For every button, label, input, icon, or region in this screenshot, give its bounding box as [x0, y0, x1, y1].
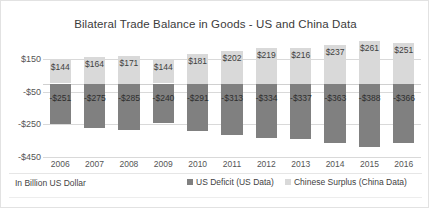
- bar-value-label: -$334: [256, 93, 277, 103]
- bar-us-deficit[interactable]: [50, 84, 71, 125]
- legend-label: US Deficit (US Data): [196, 177, 274, 187]
- x-axis-tick-label: 2015: [352, 159, 386, 169]
- chart-container: Bilateral Trade Balance in Goods - US an…: [0, 0, 429, 208]
- x-axis-tick-label: 2009: [146, 159, 180, 169]
- bar-group[interactable]: $202-$313: [221, 59, 242, 157]
- bar-value-label: -$251: [50, 93, 71, 103]
- bar-value-label: -$291: [187, 93, 208, 103]
- x-axis-tick-label: 2006: [43, 159, 77, 169]
- bar-value-label: -$363: [324, 93, 345, 103]
- bar-us-deficit[interactable]: [118, 84, 139, 131]
- bar-group[interactable]: $261-$388: [359, 59, 380, 157]
- bar-value-label: -$313: [221, 93, 242, 103]
- bar-group[interactable]: $144-$251: [50, 59, 71, 157]
- bar-value-label: -$337: [290, 93, 311, 103]
- bar-group[interactable]: $219-$334: [256, 59, 277, 157]
- bar-value-label: -$366: [393, 93, 414, 103]
- legend-swatch-icon: [187, 179, 193, 185]
- legend-swatch-icon: [285, 179, 291, 185]
- x-axis-tick-label: 2011: [215, 159, 249, 169]
- footer-divider: [9, 173, 422, 174]
- x-axis-tick-label: 2013: [284, 159, 318, 169]
- bar-value-label: $237: [324, 47, 345, 57]
- bar-value-label: $261: [359, 43, 380, 53]
- bar-group[interactable]: $144-$240: [153, 59, 174, 157]
- bar-us-deficit[interactable]: [221, 84, 242, 135]
- x-axis-tick-label: 2008: [112, 159, 146, 169]
- bar-group[interactable]: $216-$337: [290, 59, 311, 157]
- x-axis-tick-label: 2014: [318, 159, 352, 169]
- bar-value-label: $216: [290, 50, 311, 60]
- bar-value-label: $171: [118, 58, 139, 68]
- y-axis-tick-label: -$50: [3, 87, 41, 97]
- bar-value-label: $251: [393, 45, 414, 55]
- bar-value-label: -$285: [118, 93, 139, 103]
- bar-value-label: -$275: [84, 93, 105, 103]
- x-axis-tick-label: 2012: [249, 159, 283, 169]
- legend-item[interactable]: US Deficit (US Data): [187, 177, 274, 187]
- bar-group[interactable]: $251-$366: [393, 59, 414, 157]
- y-axis-tick-label: -$250: [3, 119, 41, 129]
- bar-group[interactable]: $237-$363: [324, 59, 345, 157]
- legend-item[interactable]: Chinese Surplus (China Data): [285, 177, 407, 187]
- bar-us-deficit[interactable]: [187, 84, 208, 132]
- chart-title: Bilateral Trade Balance in Goods - US an…: [1, 18, 429, 30]
- bar-value-label: $181: [187, 56, 208, 66]
- bar-us-deficit[interactable]: [84, 84, 105, 129]
- y-axis: $150-$50-$250-$450: [1, 59, 41, 157]
- bar-value-label: -$240: [153, 93, 174, 103]
- gridline: [43, 157, 421, 158]
- bar-value-label: $144: [153, 62, 174, 72]
- bar-group[interactable]: $181-$291: [187, 59, 208, 157]
- chart-legend: US Deficit (US Data)Chinese Surplus (Chi…: [187, 177, 407, 187]
- x-axis: 2006200720082009201020112012201320142015…: [43, 159, 421, 173]
- units-note: In Billion US Dollar: [15, 178, 86, 188]
- legend-label: Chinese Surplus (China Data): [294, 177, 407, 187]
- bar-value-label: $164: [84, 59, 105, 69]
- bar-value-label: -$388: [359, 93, 380, 103]
- x-axis-tick-label: 2007: [77, 159, 111, 169]
- y-axis-tick-label: $150: [3, 54, 41, 64]
- x-axis-tick-label: 2016: [387, 159, 421, 169]
- bar-group[interactable]: $171-$285: [118, 59, 139, 157]
- bar-group[interactable]: $164-$275: [84, 59, 105, 157]
- x-axis-tick-label: 2010: [180, 159, 214, 169]
- bar-value-label: $144: [50, 62, 71, 72]
- bottom-divider: [9, 197, 422, 198]
- plot-area: $144-$251$164-$275$171-$285$144-$240$181…: [43, 59, 421, 157]
- y-axis-tick-label: -$450: [3, 152, 41, 162]
- bar-value-label: $219: [256, 50, 277, 60]
- bar-value-label: $202: [221, 53, 242, 63]
- bar-us-deficit[interactable]: [153, 84, 174, 123]
